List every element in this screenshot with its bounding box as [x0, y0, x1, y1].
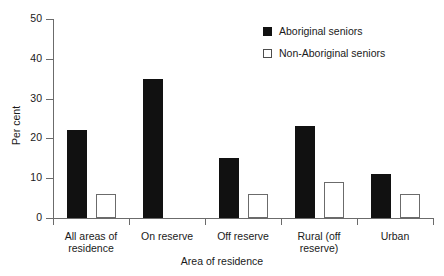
bar: [400, 194, 420, 218]
bar: [219, 158, 239, 218]
y-axis-tick: [46, 59, 53, 60]
x-axis-tick: [433, 219, 434, 225]
y-axis-tick: [46, 218, 53, 219]
bar: [67, 130, 87, 218]
y-axis-tick: [46, 138, 53, 139]
y-axis-title: Per cent: [10, 95, 24, 155]
y-axis-tick: [46, 178, 53, 179]
x-axis-tick: [129, 219, 130, 225]
legend-label: Non-Aboriginal seniors: [279, 48, 385, 59]
bar: [96, 194, 116, 218]
legend-swatch-outlined-square-icon: [263, 49, 272, 58]
y-axis-tick: [46, 99, 53, 100]
x-axis-category-label: Urban: [357, 230, 433, 242]
bar: [324, 182, 344, 218]
x-axis-tick: [205, 219, 206, 225]
legend-label: Aboriginal seniors: [279, 26, 362, 37]
x-axis-tick: [357, 219, 358, 225]
x-axis-title-label: Area of residence: [181, 255, 263, 267]
bar: [248, 194, 268, 218]
x-axis-category-label: Rural (offreserve): [281, 230, 357, 254]
bar: [295, 126, 315, 218]
x-axis-category-label: Off reserve: [205, 230, 281, 242]
y-axis-title-label: Per cent: [12, 105, 23, 144]
x-axis-category-label: All areas ofresidence: [53, 230, 129, 254]
bar: [371, 174, 391, 218]
x-axis-tick: [281, 219, 282, 225]
chart-legend: Aboriginal seniors Non-Aboriginal senior…: [263, 26, 385, 70]
x-axis-line: [53, 218, 434, 219]
x-axis-tick: [53, 219, 54, 225]
legend-item-non-aboriginal-seniors: Non-Aboriginal seniors: [263, 48, 385, 59]
y-axis-tick: [46, 19, 53, 20]
x-axis-category-label: On reserve: [129, 230, 205, 242]
bar-chart: 01020304050 Per cent All areas ofresiden…: [0, 0, 444, 276]
legend-swatch-filled-square-icon: [263, 27, 272, 36]
bar: [143, 79, 163, 218]
legend-item-aboriginal-seniors: Aboriginal seniors: [263, 26, 385, 37]
x-axis-title: Area of residence: [0, 256, 444, 267]
